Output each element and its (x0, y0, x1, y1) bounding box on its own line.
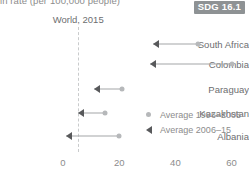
data-point-dot (117, 134, 122, 139)
x-axis-tick-label: 40 (170, 157, 181, 168)
data-point-arrow (150, 60, 156, 68)
data-point-arrow (153, 40, 159, 48)
data-point-dot (195, 42, 200, 47)
chart-legend: Average 1996–2005 Average 2006–15 (146, 107, 241, 137)
data-point-dot (229, 62, 234, 67)
x-axis-tick-label: 0 (60, 157, 65, 168)
category-label: Paraguay (191, 84, 249, 95)
row-connector (150, 64, 231, 65)
data-point-dot (120, 87, 125, 92)
legend-arrow-left-icon (146, 126, 160, 134)
data-point-arrow (66, 132, 72, 140)
legend-item: Average 2006–15 (146, 122, 241, 137)
legend-label: Average 1996–2005 (160, 110, 241, 120)
reference-line (78, 27, 79, 152)
legend-label: Average 2006–15 (160, 125, 231, 135)
x-axis-tick-label: 60 (226, 157, 237, 168)
legend-item: Average 1996–2005 (146, 107, 241, 122)
legend-dot-icon (146, 112, 160, 117)
data-point-arrow (78, 109, 84, 117)
chart-container: in rate (per 100,000 people) SDG 16.1 Wo… (0, 0, 249, 173)
data-point-dot (103, 111, 108, 116)
row-connector (153, 44, 198, 45)
row-connector (66, 136, 119, 137)
plot-area: South AfricaColombiaParaguayKazakhstanAl… (0, 0, 249, 173)
x-axis-tick-label: 20 (114, 157, 125, 168)
data-point-arrow (94, 85, 100, 93)
